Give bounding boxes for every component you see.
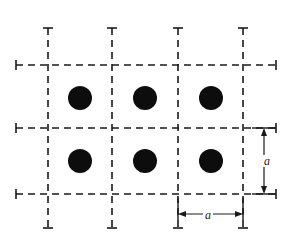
vertical-dimension-arrow-top-icon <box>261 128 267 136</box>
atom <box>199 149 223 173</box>
atom <box>199 86 223 110</box>
horizontal-gridlines-group <box>16 65 276 194</box>
horizontal-gridline-caps-group <box>16 60 276 199</box>
horizontal-dimension-arrow-right-icon <box>235 211 243 217</box>
vertical-gridline-caps-group <box>43 28 248 228</box>
lattice-diagram-canvas <box>0 0 293 243</box>
atom <box>68 86 92 110</box>
vertical-dimension-arrow-bottom-icon <box>261 186 267 194</box>
lattice-figure: a a <box>0 0 293 243</box>
vertical-dimension-label: a <box>262 155 272 167</box>
horizontal-dimension-label: a <box>203 209 213 221</box>
atom <box>133 86 157 110</box>
horizontal-dimension-arrow-left-icon <box>178 211 186 217</box>
atoms-group <box>68 86 223 173</box>
atom <box>133 149 157 173</box>
atom <box>68 149 92 173</box>
